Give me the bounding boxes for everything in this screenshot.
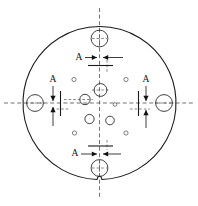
arrow-left-upper: [50, 96, 55, 101]
section-mark-left-label: A: [50, 74, 57, 84]
small-hole-lower-right: [124, 131, 128, 135]
arrow-bottom-left: [92, 151, 97, 156]
arrow-right-lower: [143, 110, 148, 115]
section-mark-top-label: A: [76, 52, 83, 62]
short-centerlines-group: [26, 30, 174, 177]
small-holes-group: [72, 77, 128, 135]
arrow-bottom-right: [103, 151, 108, 156]
small-hole-lower-left: [72, 131, 76, 135]
section-mark-left: A: [50, 74, 61, 126]
flange-section-drawing: AAAA: [0, 0, 198, 206]
hole-center: [94, 84, 107, 97]
technical-drawing-canvas: AAAA: [0, 0, 198, 206]
section-mark-bottom: A: [72, 146, 121, 158]
arrow-right-upper: [143, 96, 148, 101]
hole-lower-right: [106, 116, 115, 125]
section-mark-bottom-label: A: [72, 148, 79, 158]
small-hole-mid-right: [113, 103, 117, 107]
arrow-top-right: [103, 55, 108, 60]
section-mark-right-label: A: [143, 74, 150, 84]
hole-lower-left: [85, 114, 94, 123]
arrow-left-lower: [50, 107, 55, 112]
section-mark-right: A: [139, 74, 150, 128]
small-hole-upper-left: [72, 77, 76, 81]
arrow-top-left: [92, 55, 97, 60]
small-hole-upper-right: [124, 77, 128, 81]
